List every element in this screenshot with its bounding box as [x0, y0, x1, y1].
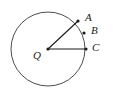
radius-segment-qa	[48, 21, 78, 49]
point-marker-q	[46, 47, 49, 50]
point-label-c: C	[92, 42, 99, 53]
point-label-b: B	[91, 25, 98, 36]
point-marker-b	[82, 31, 85, 34]
point-label-q: Q	[33, 50, 41, 61]
point-marker-c	[84, 47, 87, 50]
geometry-figure: A B C Q	[0, 0, 113, 103]
point-label-a: A	[85, 12, 92, 23]
point-marker-a	[76, 19, 79, 22]
